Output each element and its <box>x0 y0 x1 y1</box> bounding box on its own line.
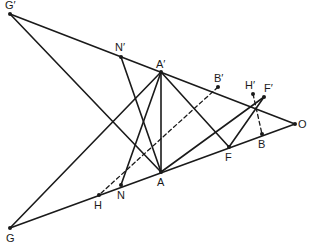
segment-a-fp <box>161 97 264 172</box>
segment-np-a <box>121 57 161 172</box>
label-b: B <box>258 138 265 150</box>
point-a <box>159 170 163 174</box>
labels-layer: G′GOA′AN′NB′BH′HF′F <box>5 0 307 244</box>
points-layer <box>8 12 297 230</box>
label-n: N <box>117 189 125 201</box>
point-hp <box>251 92 255 96</box>
point-np <box>119 55 123 59</box>
segment-gp-o <box>10 14 295 124</box>
label-np: N′ <box>115 41 125 53</box>
label-f: F <box>225 151 232 163</box>
label-fp: F′ <box>264 82 273 94</box>
label-a: A <box>157 176 165 188</box>
label-g: G <box>6 232 15 244</box>
point-n <box>119 183 123 187</box>
segment-g-o <box>10 124 295 228</box>
segments-layer <box>10 14 295 228</box>
point-ap <box>159 70 163 74</box>
label-hp: H′ <box>245 79 255 91</box>
label-ap: A′ <box>156 58 165 70</box>
segment-g-ap <box>10 72 161 228</box>
point-bp <box>216 85 220 89</box>
point-fp <box>262 95 266 99</box>
point-g <box>8 226 12 230</box>
point-o <box>293 122 297 126</box>
point-h <box>97 193 101 197</box>
label-gp: G′ <box>5 0 16 11</box>
segment-gp-a <box>10 14 161 172</box>
label-bp: B′ <box>214 72 223 84</box>
label-o: O <box>298 118 307 130</box>
point-f <box>227 145 231 149</box>
geometry-diagram: G′GOA′AN′NB′BH′HF′F <box>0 0 310 244</box>
point-b <box>260 132 264 136</box>
label-h: H <box>94 199 102 211</box>
point-gp <box>8 12 12 16</box>
segment-n-ap <box>121 72 161 185</box>
